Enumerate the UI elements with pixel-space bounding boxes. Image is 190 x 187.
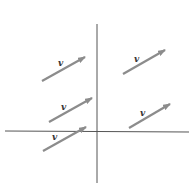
vector-arrow: [42, 57, 85, 81]
vector-label: v: [52, 132, 58, 142]
vector-v: v: [49, 98, 92, 122]
vector-arrow: [123, 50, 165, 74]
vector-v: v: [43, 127, 86, 151]
vector-arrow: [49, 98, 92, 122]
vector-label: v: [58, 58, 64, 68]
vector-v: v: [123, 50, 165, 74]
vector-label: v: [134, 54, 140, 64]
vector-label: v: [61, 102, 67, 112]
vector-arrow: [129, 104, 170, 128]
vector-v: v: [42, 57, 85, 81]
vector-arrow: [43, 127, 86, 151]
vector-v: v: [129, 104, 170, 128]
vector-diagram: vvvvv: [0, 0, 190, 187]
vector-group: vvvvv: [42, 50, 170, 151]
vector-label: v: [140, 108, 146, 118]
